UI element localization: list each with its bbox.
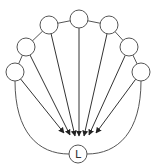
source-node-n4: [70, 10, 88, 28]
fan-in-diagram: L: [0, 0, 158, 165]
source-node-n5: [100, 16, 118, 34]
arrow-n6-to-L: [89, 55, 125, 135]
target-node-label: L: [75, 148, 82, 161]
source-node-n2: [17, 38, 35, 56]
source-node-n6: [120, 38, 138, 56]
outer-ring-connections: [15, 19, 141, 154]
arrows: [21, 28, 136, 136]
source-node-n3: [40, 16, 58, 34]
arrow-n1-to-L: [21, 79, 64, 133]
source-node-n7: [132, 63, 150, 81]
arrow-n2-to-L: [30, 55, 70, 135]
source-node-n1: [6, 63, 24, 81]
target-node-L: L: [69, 145, 87, 163]
source-nodes: [6, 10, 150, 81]
outer-arc-right: [87, 81, 141, 154]
